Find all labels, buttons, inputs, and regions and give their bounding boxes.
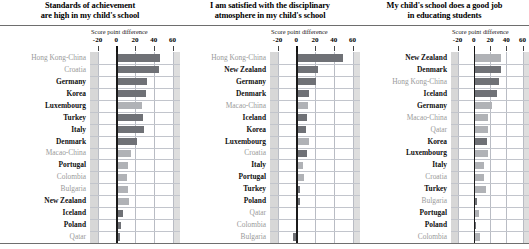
row-separator <box>270 100 360 101</box>
country-label: Portugal <box>238 173 266 181</box>
row-separator <box>451 148 529 149</box>
figure-root: Standards of achievementare high in my c… <box>0 0 529 249</box>
row-separator <box>451 136 529 137</box>
bar <box>474 186 486 193</box>
row-separator <box>270 207 360 208</box>
bar <box>116 114 143 121</box>
row-separator <box>270 64 360 65</box>
axis-tick-label: -20 <box>453 36 462 44</box>
bar <box>474 114 489 121</box>
row-separator <box>270 159 360 160</box>
zero-axis-line <box>474 52 475 243</box>
panel-title-line2: in educating students <box>360 11 529 21</box>
bar <box>296 102 308 109</box>
row-separator <box>90 207 180 208</box>
axis-caption: Score point difference <box>91 28 148 35</box>
panel-title: My child's school does a good jobin educ… <box>360 1 529 20</box>
axis-tick-label: -20 <box>273 36 282 44</box>
axis-tick-mark <box>98 46 99 51</box>
row-separator <box>270 76 360 77</box>
axis-tick-label: 60 <box>169 36 176 44</box>
row-separator <box>270 183 360 184</box>
country-label: Luxembourg <box>225 138 266 146</box>
row-separator <box>451 195 529 196</box>
row-separator <box>90 148 180 149</box>
country-label: Macao-China <box>46 149 86 157</box>
row-separator <box>90 100 180 101</box>
bar <box>296 90 309 97</box>
chart-panel-1: Standards of achievementare high in my c… <box>0 0 180 249</box>
axis-tick-label: 20 <box>132 36 139 44</box>
bar <box>116 162 128 169</box>
country-label: Italy <box>432 161 447 169</box>
row-separator <box>90 76 180 77</box>
axis-caption: Score point difference <box>452 28 509 35</box>
bar <box>474 78 499 85</box>
row-separator <box>451 76 529 77</box>
row-separator <box>451 88 529 89</box>
row-separator <box>451 231 529 232</box>
country-label: Qatar <box>70 233 86 241</box>
country-label: Hong Kong-China <box>211 54 266 62</box>
panel-title-line1: Standards of achievement <box>0 1 180 11</box>
bar <box>296 114 306 121</box>
row-separator <box>90 64 180 65</box>
country-label: New Zealand <box>224 66 266 74</box>
country-label: Croatia <box>244 149 266 157</box>
country-label: Korea <box>427 138 447 146</box>
row-separator <box>451 183 529 184</box>
country-label: Iceland <box>243 114 266 122</box>
axis-tick-mark <box>506 46 507 51</box>
axis-tick-mark <box>353 46 354 51</box>
country-label: Colombia <box>418 233 447 241</box>
axis-tick-label: 0 <box>295 36 299 44</box>
axis-tick-mark <box>278 46 279 51</box>
plot-area <box>90 52 180 243</box>
axis-tick-mark <box>490 46 491 51</box>
axis-tick-label: 20 <box>312 36 319 44</box>
bar <box>116 186 127 193</box>
country-label: Denmark <box>236 90 266 98</box>
row-separator <box>270 171 360 172</box>
row-separator <box>270 148 360 149</box>
row-separator <box>451 64 529 65</box>
bar <box>296 78 316 85</box>
panel-title-line1: I am satisfied with the disciplinary <box>180 1 360 11</box>
row-separator <box>451 112 529 113</box>
chart-panel-2: I am satisfied with the disciplinaryatmo… <box>180 0 360 249</box>
axis-caption: Score point difference <box>271 28 328 35</box>
axis-tick-mark <box>135 46 136 51</box>
bar <box>116 90 146 97</box>
country-label: Bulgaria <box>422 197 447 205</box>
axis-tick-label: 60 <box>349 36 356 44</box>
panel-bottom-rule <box>0 243 180 244</box>
country-label: Iceland <box>424 90 447 98</box>
country-label: Hong Kong-China <box>31 54 86 62</box>
bar <box>474 66 502 73</box>
zero-axis-line <box>116 52 117 243</box>
row-separator <box>90 112 180 113</box>
country-label: Denmark <box>417 66 447 74</box>
panel-top-rule <box>0 25 180 26</box>
country-label: Luxembourg <box>45 102 86 110</box>
zero-axis-line <box>296 52 297 243</box>
axis-tick-mark <box>523 46 524 51</box>
row-separator <box>451 100 529 101</box>
chart-panel-3: My child's school does a good jobin educ… <box>360 0 529 249</box>
row-separator <box>90 195 180 196</box>
bar <box>116 174 126 181</box>
panel-title: I am satisfied with the disciplinaryatmo… <box>180 1 360 20</box>
country-label: Croatia <box>425 173 447 181</box>
row-separator <box>270 219 360 220</box>
axis-tick-mark <box>334 46 335 51</box>
row-separator <box>270 124 360 125</box>
panel-top-rule <box>180 25 360 26</box>
bar <box>116 138 137 145</box>
country-label: Hong Kong-China <box>392 78 447 86</box>
panel-title-line2: are high in my child's school <box>0 11 180 21</box>
country-label: Denmark <box>56 138 86 146</box>
axis-tick-label: 40 <box>330 36 337 44</box>
bar <box>474 54 501 61</box>
bar <box>474 102 493 109</box>
country-label: Turkey <box>424 185 447 193</box>
